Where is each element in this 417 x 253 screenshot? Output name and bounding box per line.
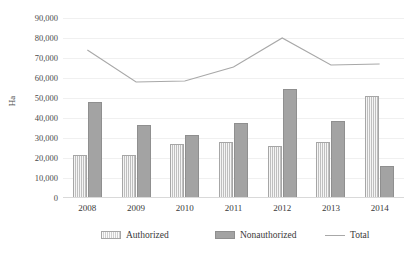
bar-nonauthorized[interactable] [331,121,345,198]
plot-area [63,18,404,198]
y-axis-tick-label: 20,000 [6,154,58,163]
bar-nonauthorized[interactable] [380,166,394,198]
x-axis-tick-label: 2008 [63,202,112,214]
y-axis-tick-label: 90,000 [6,14,58,23]
bar-authorized[interactable] [316,142,330,198]
x-axis-tick-labels: 2008200920102011201220132014 [63,202,404,218]
y-axis-tick-label: 60,000 [6,74,58,83]
y-axis-tick-label: 10,000 [6,174,58,183]
legend-label: Total [350,230,369,240]
chart-legend: AuthorizedNonauthorizedTotal [63,228,404,244]
x-axis-tick-label: 2012 [258,202,307,214]
bar-group [268,18,297,198]
bar-group [73,18,102,198]
solid-swatch-icon [215,231,235,239]
legend-item[interactable]: Authorized [101,228,169,242]
bar-group [219,18,248,198]
y-axis-tick-label: 30,000 [6,134,58,143]
y-axis-tick-label: 0 [6,194,58,203]
x-axis-tick-label: 2011 [209,202,258,214]
bar-authorized[interactable] [219,142,233,198]
y-axis-tick-label: 70,000 [6,54,58,63]
chart-container: Ha 90,00080,00070,00060,00050,00040,0003… [0,0,417,253]
y-axis-tick-label: 40,000 [6,114,58,123]
bar-group [365,18,394,198]
bar-authorized[interactable] [268,146,282,198]
legend-item[interactable]: Nonauthorized [215,228,296,242]
x-axis-tick-label: 2010 [160,202,209,214]
bar-group [122,18,151,198]
x-axis-tick-label: 2014 [355,202,404,214]
legend-label: Authorized [126,230,169,240]
line-swatch-icon [325,235,345,236]
bar-authorized[interactable] [365,96,379,198]
bar-group [316,18,345,198]
bar-nonauthorized[interactable] [283,89,297,198]
bar-nonauthorized[interactable] [137,125,151,198]
bar-nonauthorized[interactable] [234,123,248,198]
hatched-swatch-icon [101,231,121,239]
bar-authorized[interactable] [73,155,87,198]
legend-item[interactable]: Total [325,228,369,242]
x-axis-baseline [63,197,404,198]
bar-group [170,18,199,198]
bar-authorized[interactable] [170,144,184,198]
y-axis-tick-label: 80,000 [6,34,58,43]
x-axis-tick-label: 2009 [112,202,161,214]
bar-authorized[interactable] [122,155,136,198]
legend-label: Nonauthorized [240,230,296,240]
y-axis-tick-label: 50,000 [6,94,58,103]
bar-nonauthorized[interactable] [88,102,102,198]
x-axis-tick-label: 2013 [307,202,356,214]
bar-nonauthorized[interactable] [185,135,199,198]
